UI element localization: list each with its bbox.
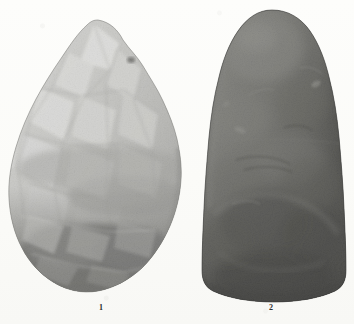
figure-1-number: 1 <box>94 304 108 312</box>
figure-2-polished-celt <box>198 8 350 304</box>
biface-illustration <box>6 18 196 304</box>
photographic-plate: 1 <box>0 0 354 324</box>
figure-1-flaked-biface <box>6 18 196 304</box>
celt-illustration <box>198 8 350 304</box>
figure-2-number: 2 <box>264 304 278 312</box>
